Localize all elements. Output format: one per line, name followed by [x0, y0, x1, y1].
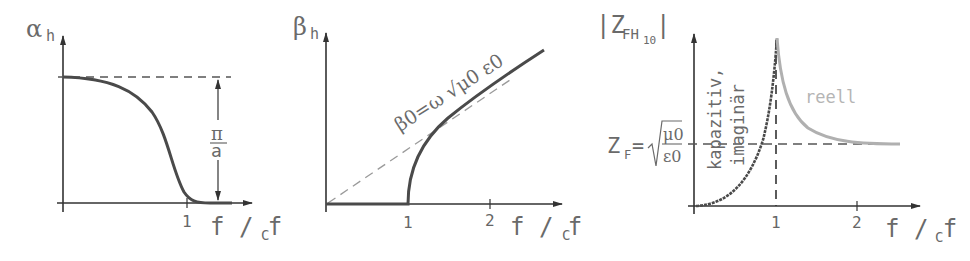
x-axis-label-sub: C [261, 227, 269, 243]
x-tick-label-2: 2 [485, 211, 495, 230]
x-axis-label-sub: C [935, 229, 943, 245]
zf-denominator: ε0 [663, 147, 681, 166]
attenuation-curve [63, 77, 232, 203]
y-axis-label-sub: FH [622, 26, 639, 42]
zf-numerator: μ0 [663, 125, 684, 144]
x-axis-label-main: f / f [210, 213, 282, 241]
y-axis-label-subsub: 10 [643, 34, 656, 47]
y-axis-label-sub: h [46, 27, 55, 45]
plot-phase-constant: β h 1 2 f / f C β0=ω √μ0 ε0 [293, 13, 582, 243]
x-tick-label-1: 1 [182, 212, 192, 231]
x-tick-label-2: 2 [852, 213, 862, 232]
figure-canvas: α h 1 f / f C π a β h 1 2 f / f C β0=ω √… [0, 0, 970, 261]
region-label-imaginaer: imaginär [728, 84, 748, 166]
x-tick-label-1: 1 [771, 213, 781, 232]
pi-over-a-denominator: a [211, 140, 222, 161]
y-axis-label-sub: h [310, 25, 319, 43]
y-axis-label-main: α [26, 15, 42, 43]
plot-attenuation: α h 1 f / f C π a [26, 15, 282, 243]
x-axis-label-sub: C [562, 227, 570, 243]
plot-wave-impedance: |Z FH 10 | Z F = μ0 ε0 1 2 f / f C kapaz… [596, 11, 957, 245]
zf-label-main: Z [607, 133, 620, 158]
y-axis-label-main: |Z [596, 11, 625, 39]
x-tick-label-1: 1 [403, 213, 413, 232]
region-label-reell: reell [805, 87, 856, 107]
y-axis-label-end: | [656, 11, 670, 39]
x-axis-label-main: f / f [885, 215, 957, 243]
zf-label-sub: F [624, 148, 631, 162]
zf-label-equals: = [632, 133, 644, 157]
asymptote-label: β0=ω √μ0 ε0 [390, 49, 507, 136]
beta-curve [326, 50, 544, 204]
y-axis-label-main: β [293, 13, 307, 41]
x-axis-label-main: f / f [510, 213, 582, 241]
region-label-kapazitiv: kapazitiv, [705, 68, 725, 170]
